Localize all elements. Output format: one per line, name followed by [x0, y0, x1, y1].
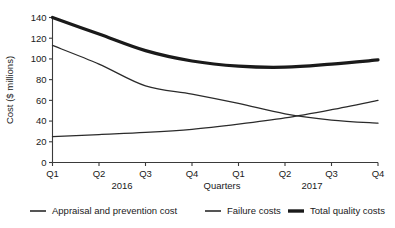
series-line-0 [53, 100, 379, 136]
chart-svg: 020406080100120140 Cost ($ millions) Q1Q… [0, 0, 395, 228]
series-line-2 [53, 18, 379, 68]
series-line-1 [53, 45, 379, 123]
x-group-label-2017: 2017 [301, 180, 322, 191]
y-tick-label: 20 [36, 136, 47, 147]
x-tick-label: Q3 [325, 168, 338, 179]
x-tick-label: Q1 [46, 168, 59, 179]
y-tick-label: 100 [31, 53, 47, 64]
y-tick-label: 40 [36, 115, 47, 126]
x-group-label-2016: 2016 [111, 180, 132, 191]
y-axis-title: Cost ($ millions) [4, 56, 15, 124]
y-tick-label: 120 [31, 33, 47, 44]
legend-label-2: Total quality costs [310, 205, 385, 216]
y-tick-label: 80 [36, 74, 47, 85]
x-tick-group: Q1Q2Q3Q4Q1Q2Q3Q4 [46, 163, 384, 179]
x-axis-title: Quarters [204, 180, 241, 191]
series-group [53, 18, 379, 137]
x-tick-label: Q3 [139, 168, 152, 179]
quality-cost-line-chart: 020406080100120140 Cost ($ millions) Q1Q… [0, 0, 395, 228]
x-tick-label: Q2 [279, 168, 292, 179]
legend-label-0: Appraisal and prevention cost [52, 205, 178, 216]
x-tick-label: Q4 [372, 168, 385, 179]
chart-legend: Appraisal and prevention costFailure cos… [30, 205, 385, 216]
y-tick-label: 0 [41, 157, 46, 168]
x-tick-label: Q4 [186, 168, 199, 179]
x-axis: Q1Q2Q3Q4Q1Q2Q3Q4 Quarters 2016 2017 [46, 163, 384, 192]
y-tick-group: 020406080100120140 [31, 12, 53, 168]
y-tick-label: 60 [36, 95, 47, 106]
y-axis: 020406080100120140 Cost ($ millions) [4, 12, 53, 168]
x-tick-label: Q1 [232, 168, 245, 179]
y-tick-label: 140 [31, 12, 47, 23]
x-tick-label: Q2 [93, 168, 106, 179]
legend-label-1: Failure costs [227, 205, 281, 216]
